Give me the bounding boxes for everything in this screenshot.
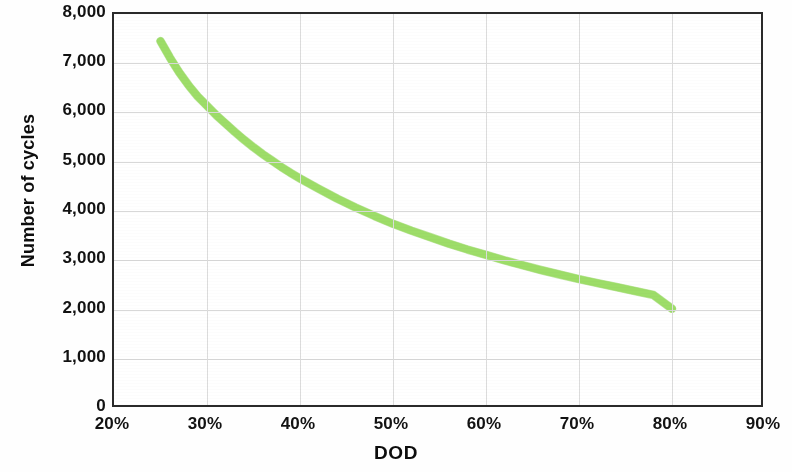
x-tick-50: 50% [374,414,409,434]
y-tick-0: 0 [96,396,106,416]
x-tick-90: 90% [746,414,781,434]
y-tick-2000: 2,000 [62,298,106,318]
gridline-h-3000 [114,260,761,261]
gridline-h-4000 [114,211,761,212]
x-tick-60: 60% [467,414,502,434]
y-tick-7000: 7,000 [62,51,106,71]
y-tick-6000: 6,000 [62,100,106,120]
x-tick-20: 20% [95,414,130,434]
gridline-v-30 [207,14,208,405]
gridline-v-50 [393,14,394,405]
gridline-v-80 [672,14,673,405]
y-tick-3000: 3,000 [62,248,106,268]
x-tick-80: 80% [653,414,688,434]
y-tick-8000: 8,000 [62,2,106,22]
gridline-h-7000 [114,63,761,64]
gridline-h-5000 [114,162,761,163]
gridline-h-6000 [114,112,761,113]
x-tick-70: 70% [560,414,595,434]
y-tick-5000: 5,000 [62,150,106,170]
y-tick-4000: 4,000 [62,199,106,219]
plot-area [112,12,763,407]
gridline-h-2000 [114,310,761,311]
gridline-v-60 [486,14,487,405]
chart-figure: Number of cycles 8,000 7,000 6,000 5,000… [0,0,792,472]
y-tick-1000: 1,000 [62,347,106,367]
x-tick-40: 40% [281,414,316,434]
x-tick-30: 30% [188,414,223,434]
x-axis-title: DOD [0,442,792,464]
gridline-h-1000 [114,359,761,360]
gridline-v-70 [579,14,580,405]
y-axis-tick-labels: 8,000 7,000 6,000 5,000 4,000 3,000 2,00… [0,0,106,472]
gridline-v-40 [300,14,301,405]
